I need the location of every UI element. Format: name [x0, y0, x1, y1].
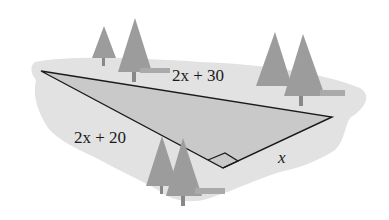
long-leg-label: 2x + 20: [74, 128, 126, 148]
hypotenuse-text: 2x + 30: [172, 66, 224, 85]
long-leg-text: 2x + 20: [74, 128, 126, 147]
short-leg-label: x: [278, 148, 286, 168]
diagram-canvas: 2x + 30 2x + 20 x: [0, 0, 389, 220]
triangle-scene: [0, 0, 389, 220]
hypotenuse-label: 2x + 30: [172, 66, 224, 86]
short-leg-text: x: [278, 148, 286, 167]
